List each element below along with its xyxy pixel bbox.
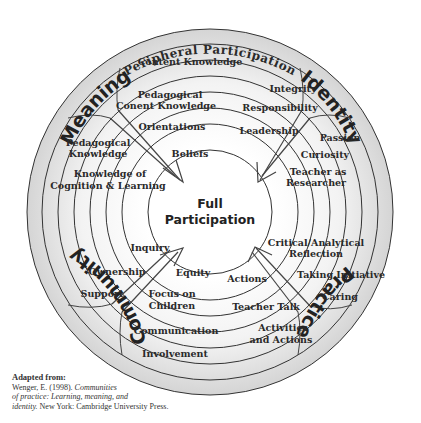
svg-text:Responsibility: Responsibility [242, 102, 318, 113]
svg-text:Curiosity: Curiosity [301, 149, 350, 160]
svg-text:Passion: Passion [320, 132, 361, 143]
svg-text:Focus on: Focus on [148, 288, 195, 299]
svg-text:Critical/Analytical: Critical/Analytical [268, 237, 365, 248]
svg-text:Orientations: Orientations [139, 121, 206, 132]
svg-text:Teacher Talk: Teacher Talk [232, 301, 300, 312]
svg-text:Children: Children [149, 300, 195, 311]
citation-line-1: Wenger, E. (1998). Communities [12, 383, 212, 393]
svg-text:Involvement: Involvement [142, 348, 208, 359]
svg-text:Knowledge of: Knowledge of [74, 168, 147, 179]
svg-text:Pedagogical: Pedagogical [138, 89, 203, 100]
citation-heading: Adapted from: [12, 373, 212, 383]
svg-text:Conent Knowledge: Conent Knowledge [116, 100, 216, 111]
citation-line-2: of practice: Learning, meaning, and [12, 392, 212, 402]
svg-text:Cognition & Learning: Cognition & Learning [50, 180, 166, 191]
svg-text:Taking Initiative: Taking Initiative [297, 269, 385, 280]
svg-text:Beliefs: Beliefs [172, 148, 209, 159]
svg-text:Pedagogical: Pedagogical [66, 137, 131, 148]
citation: Adapted from: Wenger, E. (1998). Communi… [12, 373, 212, 411]
svg-text:Activities: Activities [257, 322, 308, 333]
svg-text:Integrity: Integrity [270, 83, 317, 94]
svg-text:and Actions: and Actions [250, 334, 313, 345]
citation-line-3: identity. New York: Cambridge University… [12, 402, 212, 412]
svg-text:Ownership: Ownership [89, 266, 146, 277]
svg-text:Equity: Equity [176, 267, 211, 278]
svg-text:Reflection: Reflection [289, 248, 343, 259]
svg-text:Researcher: Researcher [286, 177, 347, 188]
svg-text:Caring: Caring [322, 291, 358, 302]
svg-text:Full: Full [197, 196, 222, 211]
svg-text:Actions: Actions [226, 273, 267, 284]
svg-text:Communication: Communication [134, 325, 219, 336]
svg-text:Content Knowledge: Content Knowledge [138, 56, 243, 67]
svg-text:Participation: Participation [165, 212, 256, 227]
svg-text:Leadership: Leadership [239, 125, 298, 136]
svg-text:Support: Support [81, 288, 124, 299]
svg-text:Teacher as: Teacher as [290, 166, 347, 177]
svg-text:Inquiry: Inquiry [130, 242, 170, 253]
svg-text:Knowledge: Knowledge [69, 148, 128, 159]
communities-of-practice-diagram: Peripheral Participation Meaning Identit… [0, 0, 421, 423]
